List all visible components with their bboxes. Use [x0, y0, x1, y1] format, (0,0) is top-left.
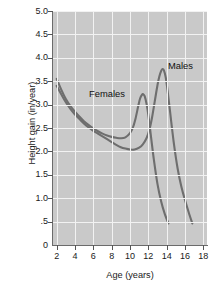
y-tick-label: 3.0 — [18, 100, 48, 109]
x-tick-label: 18 — [192, 252, 214, 261]
y-tick-label: 4.0 — [18, 53, 48, 62]
gridline-horizontal — [53, 222, 207, 223]
y-tick-label: 0 — [18, 241, 48, 250]
x-tick-mark — [57, 245, 58, 250]
gridline-horizontal — [53, 175, 207, 176]
y-tick-label: 3.5 — [18, 77, 48, 86]
y-tick-label: 1.5 — [18, 170, 48, 179]
x-tick-mark — [167, 245, 168, 250]
x-tick-mark — [185, 245, 186, 250]
y-tick-label: 5.0 — [18, 7, 48, 16]
x-tick-mark — [148, 245, 149, 250]
gridline-horizontal — [53, 11, 207, 12]
x-tick-mark — [112, 245, 113, 250]
gridline-horizontal — [53, 58, 207, 59]
y-tick-label: 2.0 — [18, 147, 48, 156]
gridline-horizontal — [53, 34, 207, 35]
gridline-horizontal — [53, 81, 207, 82]
x-tick-mark — [75, 245, 76, 250]
series-label-males: Males — [168, 60, 193, 71]
x-axis-title: Age (years) — [53, 270, 207, 280]
gridline-horizontal — [53, 151, 207, 152]
series-label-females: Females — [89, 88, 125, 99]
gridline-horizontal — [53, 128, 207, 129]
x-tick-mark — [130, 245, 131, 250]
y-tick-label: 4.5 — [18, 30, 48, 39]
chart-figure: Height gain (in/year) Age (years) 0.51.0… — [0, 0, 221, 289]
y-tick-label: 2.5 — [18, 124, 48, 133]
x-tick-mark — [203, 245, 204, 250]
y-tick-label: 1.0 — [18, 194, 48, 203]
y-tick-label: .5 — [18, 217, 48, 226]
plot-area — [53, 11, 207, 245]
gridline-horizontal — [53, 198, 207, 199]
gridline-horizontal — [53, 105, 207, 106]
x-tick-mark — [93, 245, 94, 250]
